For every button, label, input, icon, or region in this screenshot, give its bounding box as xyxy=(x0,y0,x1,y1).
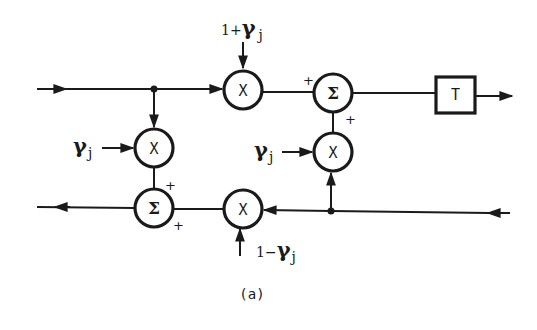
sum-top-sign-left: + xyxy=(303,73,314,88)
wire-sum-bottom-to-output xyxy=(37,207,135,208)
figure-caption: (a) xyxy=(239,286,264,302)
delay-node: T xyxy=(436,77,475,113)
mult-right-node: X xyxy=(314,133,352,171)
sum-bottom-sign-top: + xyxy=(165,178,176,193)
mult-left-symbol: X xyxy=(149,140,158,158)
mult-top-symbol: X xyxy=(238,82,247,100)
bottom-backward-path xyxy=(37,207,510,215)
mult-right-symbol: X xyxy=(328,144,337,162)
delay-symbol: T xyxy=(451,86,460,104)
sum-top-sign-bottom: + xyxy=(345,112,356,127)
gain-label-mult-right: γj xyxy=(254,137,273,165)
wire-input-to-junction-bottom xyxy=(331,211,490,213)
gain-label-mult-top: 1+γj xyxy=(221,15,263,43)
sum-top-symbol: Σ xyxy=(327,83,339,103)
sum-bottom-node: Σ xyxy=(135,189,173,227)
gain-label-mult-left: γj xyxy=(73,133,92,161)
mult-top-node: X xyxy=(224,71,262,109)
sum-bottom-symbol: Σ xyxy=(148,198,160,218)
mult-left-node: X xyxy=(135,129,173,167)
wire-junction-to-mult-bottom xyxy=(264,210,331,211)
mult-bottom-node: X xyxy=(224,190,262,228)
mult-bottom-symbol: X xyxy=(238,201,247,219)
gain-label-mult-bottom: 1−γj xyxy=(256,237,296,265)
sum-bottom-sign-right: + xyxy=(173,218,184,233)
lattice-filter-diagram: X X X X Σ Σ T + + + + 1+γj γj γj 1−γj (a… xyxy=(0,0,537,330)
sum-top-node: Σ xyxy=(314,74,352,112)
